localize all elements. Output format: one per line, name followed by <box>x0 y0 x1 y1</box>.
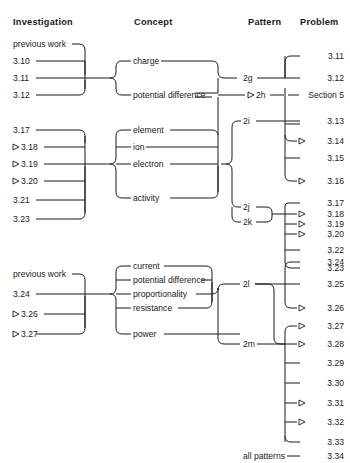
column-header-pattern: Pattern <box>248 17 282 27</box>
connector-inv3-327 <box>36 296 85 334</box>
connector-pattern2-2j-in <box>226 164 241 207</box>
pattern-label-all-patterns: all patterns <box>243 451 285 461</box>
problem-label-3-32: 3.32 <box>327 417 344 427</box>
column-header-investigation: Investigation <box>13 17 73 27</box>
marker-triangle-3-18 <box>299 211 305 217</box>
investigation-label-3-27: 3.27 <box>21 329 38 339</box>
problem-label-3-15: 3.15 <box>327 153 344 163</box>
problem-label-3-25: 3.25 <box>327 279 344 289</box>
marker-triangle-inv-3-18 <box>13 144 19 150</box>
connector-pattern2-2k-in <box>232 207 241 222</box>
concept-label-ion: ion <box>133 142 145 152</box>
concept-label-power: power <box>133 329 157 339</box>
connector-to-326 <box>285 284 297 308</box>
connector-concept3-to-2l <box>212 288 218 294</box>
connector-to-323 <box>285 250 300 268</box>
pattern-label-2j: 2j <box>243 202 250 212</box>
problem-label-3-26: 3.26 <box>327 303 344 313</box>
concept-label-charge: charge <box>133 56 159 66</box>
pattern-label-2h: 2h <box>256 90 266 100</box>
connector-inv2-323 <box>36 166 85 219</box>
pattern-label-2l: 2l <box>243 279 250 289</box>
marker-triangle-3-20 <box>299 231 305 237</box>
problem-label-3-22: 3.22 <box>327 245 344 255</box>
marker-triangle-inv-3-20 <box>13 178 19 184</box>
investigation-label-3-11: 3.11 <box>13 73 29 83</box>
marker-triangle-inv-3-26 <box>13 311 19 317</box>
connector-concept1-pd-in <box>110 78 131 95</box>
problem-label-3-16: 3.16 <box>327 176 344 186</box>
investigation-label-3-21: 3.21 <box>13 195 30 205</box>
problem-label-3-31: 3.31 <box>327 398 344 408</box>
problem-label-3-28: 3.28 <box>327 339 344 349</box>
problem-label-3-14: 3.14 <box>327 136 344 146</box>
concept-label-resistance: resistance <box>133 303 172 313</box>
column-header-concept: Concept <box>134 17 173 27</box>
connector-to-324 <box>285 262 300 284</box>
marker-triangle-3-31 <box>299 400 305 406</box>
problem-label-3-11: 3.11 <box>328 51 344 61</box>
investigation-label-3-24: 3.24 <box>13 289 30 299</box>
investigation-label-3-18: 3.18 <box>21 142 38 152</box>
connector-2j-out <box>256 207 272 214</box>
connector-concept1-charge-in <box>110 61 131 78</box>
problem-label-3-33: 3.33 <box>327 437 344 447</box>
connector-concept2-activity-in <box>110 164 131 198</box>
problem-label-3-24: 3.24 <box>327 257 344 267</box>
connector-inv2-317 <box>36 130 85 143</box>
investigation-label-3-17: 3.17 <box>13 125 30 135</box>
connector-to-317 <box>285 203 300 206</box>
marker-triangle-3-28 <box>299 341 305 347</box>
connector-to-316 <box>285 158 297 181</box>
marker-triangle-3-16 <box>299 178 305 184</box>
connector-spine1-to-311 <box>285 56 300 78</box>
connector-to-2m-rail <box>218 300 240 344</box>
concept-label-potential-difference-1: potential difference <box>133 90 206 100</box>
connector-to-2l <box>218 284 240 290</box>
pattern-label-2i: 2i <box>243 116 250 126</box>
problem-label-3-27: 3.27 <box>327 321 344 331</box>
concept-label-electron: electron <box>133 159 164 169</box>
concept-label-activity: activity <box>133 193 160 203</box>
investigation-label-3-19: 3.19 <box>21 159 38 169</box>
marker-triangle-inv-3-27 <box>13 331 19 337</box>
concept-label-current: current <box>133 261 160 271</box>
problem-label-section-5: Section 5 <box>308 90 344 100</box>
hierarchy-diagram: Investigation Concept Pattern Problem pr… <box>0 0 350 463</box>
marker-triangle-3-14 <box>299 138 305 144</box>
problem-label-3-20b: 3.20 <box>327 229 344 239</box>
problem-label-3-13: 3.13 <box>327 116 344 126</box>
concept-label-potential-difference-2: potential difference <box>133 275 206 285</box>
pattern-label-2k: 2k <box>243 217 253 227</box>
connector-activity-out <box>170 166 218 198</box>
connector-2k-out <box>256 214 272 222</box>
marker-triangle-3-32 <box>299 419 305 425</box>
problem-label-3-30: 3.30 <box>327 378 344 388</box>
investigation-label-3-12: 3.12 <box>13 90 30 100</box>
marker-triangle-3-26 <box>299 305 305 311</box>
investigation-label-3-20: 3.20 <box>21 176 38 186</box>
pattern-label-2g: 2g <box>243 73 253 83</box>
investigation-label-previous-work-2: previous work <box>13 269 67 279</box>
marker-triangle-3-27 <box>299 323 305 329</box>
problem-label-3-19b: 3.19 <box>327 219 344 229</box>
problem-label-3-17b: 3.17 <box>327 198 344 208</box>
problem-label-3-29: 3.29 <box>327 358 344 368</box>
connector-inv3-prevwork <box>72 274 85 290</box>
investigation-label-3-10: 3.10 <box>13 56 30 66</box>
connector-charge-to-2g <box>161 61 237 78</box>
pattern-label-2m: 2m <box>243 339 255 349</box>
investigation-label-3-26: 3.26 <box>21 309 38 319</box>
marker-triangle-3-19 <box>299 221 305 227</box>
connector-inv1-312 <box>36 80 85 95</box>
problem-label-3-12: 3.12 <box>327 73 344 83</box>
connector-to-314 <box>285 135 297 141</box>
connector-concept3-power-in <box>110 294 131 334</box>
marker-triangle-2h <box>248 92 254 98</box>
problem-label-3-34: 3.34 <box>327 451 344 461</box>
investigation-label-previous-work-1: previous work <box>13 39 67 49</box>
connector-2l-out <box>255 284 285 344</box>
connector-inv1-prevwork <box>72 44 85 75</box>
concept-label-element: element <box>133 125 164 135</box>
connector-to-333 <box>285 436 300 442</box>
